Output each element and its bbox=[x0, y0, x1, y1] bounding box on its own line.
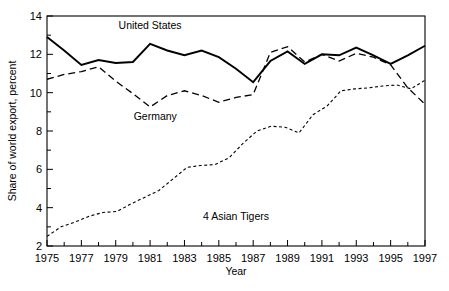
x-tick-label: 1987 bbox=[241, 252, 265, 264]
y-tick-label: 4 bbox=[36, 202, 42, 214]
series-label-4-asian-tigers: 4 Asian Tigers bbox=[203, 210, 269, 222]
y-tick-label: 14 bbox=[30, 10, 42, 22]
y-axis-title: Share of world export, percent bbox=[6, 61, 18, 202]
y-axis-tick-labels: 2468101214 bbox=[30, 10, 42, 252]
series-line-united-states bbox=[47, 37, 425, 82]
y-tick-label: 8 bbox=[36, 125, 42, 137]
x-tick-label: 1979 bbox=[103, 252, 127, 264]
y-tick-label: 10 bbox=[30, 87, 42, 99]
series-label-united-states: United States bbox=[119, 19, 182, 31]
line-chart: 2468101214 19751977197919811983198519871… bbox=[0, 0, 449, 291]
x-tick-label: 1991 bbox=[310, 252, 334, 264]
x-tick-label: 1985 bbox=[207, 252, 231, 264]
series-annotations: United StatesGermany4 Asian Tigers bbox=[119, 19, 269, 222]
x-tick-label: 1995 bbox=[378, 252, 402, 264]
x-axis-title: Year bbox=[225, 265, 247, 277]
x-tick-label: 1977 bbox=[69, 252, 93, 264]
series-label-germany: Germany bbox=[134, 110, 178, 122]
x-tick-label: 1983 bbox=[172, 252, 196, 264]
y-tick-label: 12 bbox=[30, 48, 42, 60]
y-tick-label: 2 bbox=[36, 240, 42, 252]
data-series-group bbox=[47, 37, 425, 236]
x-tick-label: 1997 bbox=[413, 252, 437, 264]
x-tick-label: 1993 bbox=[344, 252, 368, 264]
y-tick-label: 6 bbox=[36, 163, 42, 175]
x-axis-ticks bbox=[47, 240, 425, 246]
x-axis-tick-labels: 1975197719791981198319851987198919911993… bbox=[35, 252, 437, 264]
x-tick-label: 1975 bbox=[35, 252, 59, 264]
series-line-germany bbox=[47, 47, 425, 107]
y-axis-ticks bbox=[47, 16, 53, 246]
chart-figure: 2468101214 19751977197919811983198519871… bbox=[0, 0, 449, 291]
x-tick-label: 1989 bbox=[275, 252, 299, 264]
x-tick-label: 1981 bbox=[138, 252, 162, 264]
